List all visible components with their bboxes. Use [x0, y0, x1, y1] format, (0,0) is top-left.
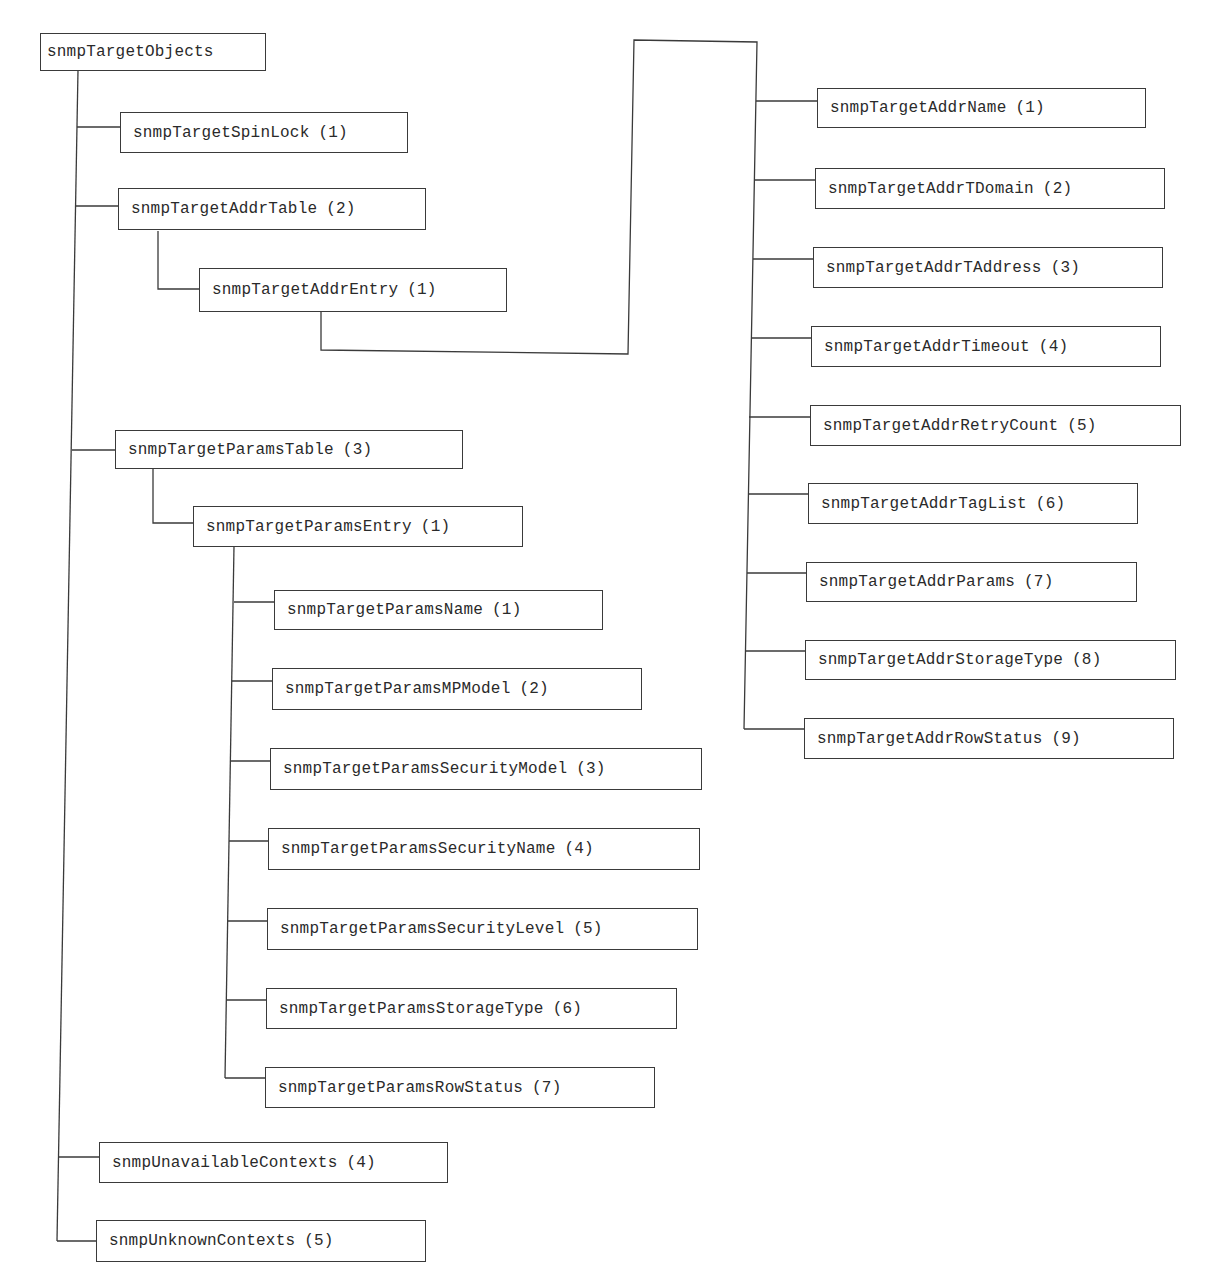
- node-label: snmpTargetAddrStorageType: [818, 652, 1063, 668]
- node-index: (5): [1067, 418, 1096, 434]
- node-label: snmpTargetAddrRowStatus: [817, 731, 1042, 747]
- node-index: (4): [564, 841, 593, 857]
- node-label: snmpTargetObjects: [47, 44, 214, 60]
- node-snmp-target-params-security-level: snmpTargetParamsSecurityLevel (5): [267, 908, 698, 950]
- node-index: (6): [1036, 496, 1065, 512]
- node-label: snmpTargetParamsSecurityName: [281, 841, 555, 857]
- node-index: (3): [343, 442, 372, 458]
- node-snmp-unknown-contexts: snmpUnknownContexts (5): [96, 1220, 426, 1262]
- node-index: (4): [1039, 339, 1068, 355]
- node-index: (1): [1015, 100, 1044, 116]
- node-index: (1): [318, 125, 347, 141]
- node-snmp-target-params-storage-type: snmpTargetParamsStorageType (6): [266, 988, 677, 1029]
- mib-tree-diagram: snmpTargetObjects snmpTargetSpinLock (1)…: [0, 0, 1215, 1284]
- node-label: snmpTargetAddrParams: [819, 574, 1015, 590]
- node-index: (3): [576, 761, 605, 777]
- node-snmp-target-params-mp-model: snmpTargetParamsMPModel (2): [272, 668, 642, 710]
- node-snmp-target-params-entry: snmpTargetParamsEntry (1): [193, 506, 523, 547]
- node-index: (7): [1024, 574, 1053, 590]
- node-index: (9): [1051, 731, 1080, 747]
- node-index: (3): [1051, 260, 1080, 276]
- node-index: (4): [346, 1155, 375, 1171]
- node-label: snmpTargetParamsStorageType: [279, 1001, 544, 1017]
- node-index: (5): [573, 921, 602, 937]
- node-index: (2): [1043, 181, 1072, 197]
- node-snmp-target-params-name: snmpTargetParamsName (1): [274, 590, 603, 630]
- node-label: snmpTargetAddrName: [830, 100, 1006, 116]
- node-snmp-target-addr-taddress: snmpTargetAddrTAddress (3): [813, 247, 1163, 288]
- node-snmp-target-addr-storage-type: snmpTargetAddrStorageType (8): [805, 640, 1176, 680]
- node-label: snmpTargetParamsRowStatus: [278, 1080, 523, 1096]
- node-snmp-target-addr-name: snmpTargetAddrName (1): [817, 88, 1146, 128]
- node-snmp-target-objects: snmpTargetObjects: [40, 33, 266, 71]
- node-index: (1): [492, 602, 521, 618]
- node-index: (2): [519, 681, 548, 697]
- node-snmp-target-spin-lock: snmpTargetSpinLock (1): [120, 112, 408, 153]
- node-snmp-target-addr-entry: snmpTargetAddrEntry (1): [199, 268, 507, 312]
- node-label: snmpTargetParamsSecurityLevel: [280, 921, 564, 937]
- node-snmp-target-addr-tag-list: snmpTargetAddrTagList (6): [808, 483, 1138, 524]
- node-label: snmpTargetAddrTDomain: [828, 181, 1034, 197]
- node-index: (7): [532, 1080, 561, 1096]
- node-label: snmpUnknownContexts: [109, 1233, 295, 1249]
- node-label: snmpTargetAddrTagList: [821, 496, 1027, 512]
- node-snmp-unavailable-contexts: snmpUnavailableContexts (4): [99, 1142, 448, 1183]
- node-index: (5): [304, 1233, 333, 1249]
- node-snmp-target-addr-table: snmpTargetAddrTable (2): [118, 188, 426, 230]
- node-snmp-target-params-security-name: snmpTargetParamsSecurityName (4): [268, 828, 700, 870]
- node-label: snmpTargetParamsMPModel: [285, 681, 510, 697]
- node-snmp-target-params-table: snmpTargetParamsTable (3): [115, 430, 463, 469]
- connector-addrtable-entry: [158, 231, 199, 289]
- node-snmp-target-params-row-status: snmpTargetParamsRowStatus (7): [265, 1067, 655, 1108]
- node-index: (1): [407, 282, 436, 298]
- connector-paramstable-entry: [153, 468, 193, 523]
- node-label: snmpTargetParamsSecurityModel: [283, 761, 567, 777]
- node-snmp-target-addr-retry-count: snmpTargetAddrRetryCount (5): [810, 405, 1181, 446]
- node-label: snmpUnavailableContexts: [112, 1155, 337, 1171]
- root-trunk-line: [57, 70, 78, 1241]
- paramsentry-trunk-line: [225, 546, 234, 1078]
- node-index: (6): [553, 1001, 582, 1017]
- node-snmp-target-addr-params: snmpTargetAddrParams (7): [806, 562, 1137, 602]
- node-label: snmpTargetParamsEntry: [206, 519, 412, 535]
- node-label: snmpTargetAddrRetryCount: [823, 418, 1058, 434]
- node-index: (8): [1072, 652, 1101, 668]
- node-label: snmpTargetAddrTimeout: [824, 339, 1030, 355]
- node-label: snmpTargetAddrTable: [131, 201, 317, 217]
- node-label: snmpTargetSpinLock: [133, 125, 309, 141]
- node-label: snmpTargetParamsTable: [128, 442, 334, 458]
- node-snmp-target-addr-tdomain: snmpTargetAddrTDomain (2): [815, 168, 1165, 209]
- node-index: (2): [326, 201, 355, 217]
- node-label: snmpTargetAddrEntry: [212, 282, 398, 298]
- node-snmp-target-addr-row-status: snmpTargetAddrRowStatus (9): [804, 718, 1174, 759]
- node-snmp-target-params-security-model: snmpTargetParamsSecurityModel (3): [270, 748, 702, 790]
- node-label: snmpTargetParamsName: [287, 602, 483, 618]
- node-index: (1): [421, 519, 450, 535]
- node-snmp-target-addr-timeout: snmpTargetAddrTimeout (4): [811, 326, 1161, 367]
- node-label: snmpTargetAddrTAddress: [826, 260, 1042, 276]
